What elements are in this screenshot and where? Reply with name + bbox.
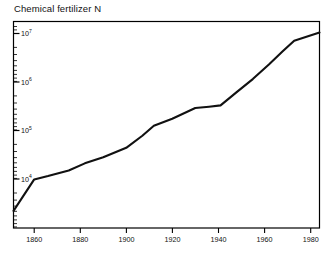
x-tick-label-1980: 1980 [303,235,319,244]
x-tick-label-1880: 1880 [72,235,88,244]
y-axis-labels: 104 105 106 107 [21,28,32,184]
x-tick-label-1860: 1860 [26,235,42,244]
data-series-line [14,32,320,210]
chart-plot: 104 105 106 107 1860 1880 1900 1920 1940… [0,0,336,254]
x-tick-label-1900: 1900 [118,235,134,244]
y-axis-major-ticks [14,34,20,180]
chart-figure: Chemical fertilizer N [0,0,336,254]
x-tick-label-1940: 1940 [211,235,227,244]
x-tick-label-1920: 1920 [164,235,180,244]
x-tick-label-1960: 1960 [257,235,273,244]
y-tick-label-1e6: 106 [21,76,32,86]
y-tick-label-1e7: 107 [21,28,32,38]
y-tick-label-1e5: 105 [21,125,32,135]
x-axis-labels: 1860 1880 1900 1920 1940 1960 1980 [26,235,319,244]
plot-frame [14,22,320,229]
y-tick-label-1e4: 104 [21,173,32,183]
x-axis-ticks [34,228,311,233]
